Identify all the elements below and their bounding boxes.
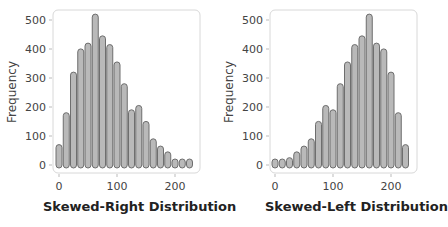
histogram-bar — [345, 62, 351, 168]
histogram-bar — [158, 146, 164, 168]
x-tick-label: 0 — [272, 180, 279, 193]
y-tick-label: 300 — [242, 72, 263, 85]
histogram-bar — [308, 139, 314, 168]
y-tick-label: 400 — [25, 43, 46, 56]
histogram-bar — [85, 43, 91, 168]
histogram-bar — [337, 84, 343, 168]
histogram-bar — [403, 145, 409, 168]
x-axis-label: Skewed-Left Distribution — [265, 199, 448, 214]
histogram-bar — [374, 43, 380, 168]
histogram-bar — [100, 36, 106, 168]
y-tick-label: 200 — [242, 101, 263, 114]
x-tick-label: 100 — [107, 180, 128, 193]
histogram-bar — [287, 158, 293, 168]
histogram-bar — [78, 49, 84, 168]
histogram-bar — [165, 152, 171, 168]
histogram-bar — [279, 159, 285, 168]
histogram-plot: 01002003004005000100200Frequency — [213, 0, 425, 227]
histogram-bar — [63, 113, 69, 168]
y-tick-label: 100 — [242, 130, 263, 143]
y-tick-label: 500 — [242, 14, 263, 27]
histogram-bar — [316, 121, 322, 168]
histogram-bar — [388, 72, 394, 168]
histogram-bar — [92, 14, 98, 168]
histogram-bar — [143, 121, 149, 168]
x-tick-label: 0 — [56, 180, 63, 193]
y-tick-label: 100 — [25, 130, 46, 143]
histogram-bar — [121, 84, 127, 168]
histogram-bar — [323, 105, 329, 168]
histogram-bar — [359, 36, 365, 168]
histogram-bar — [71, 72, 77, 168]
histogram-bar — [136, 105, 142, 168]
x-tick-label: 200 — [165, 180, 186, 193]
y-tick-label: 300 — [25, 72, 46, 85]
y-axis-label: Frequency — [222, 61, 236, 123]
histogram-bar — [301, 146, 307, 168]
histogram-bar — [129, 110, 135, 168]
y-tick-label: 0 — [256, 159, 263, 172]
histogram-plot: 01002003004005000100200Frequency — [0, 0, 212, 227]
y-tick-label: 200 — [25, 101, 46, 114]
histogram-bar — [366, 14, 372, 168]
y-tick-label: 0 — [39, 159, 46, 172]
histogram-bar — [272, 159, 278, 168]
histogram-bar — [381, 49, 387, 168]
y-tick-label: 500 — [25, 14, 46, 27]
skewed-right-histogram: 01002003004005000100200Frequency Skewed-… — [0, 0, 212, 227]
histogram-bar — [179, 159, 185, 168]
histogram-bar — [150, 139, 156, 168]
x-axis-label: Skewed-Right Distribution — [43, 199, 236, 214]
x-tick-label: 200 — [381, 180, 402, 193]
histogram-bar — [56, 145, 62, 168]
histogram-bar — [330, 110, 336, 168]
histogram-bar — [172, 159, 178, 168]
x-tick-label: 100 — [323, 180, 344, 193]
histogram-bar — [107, 45, 113, 168]
skewed-left-histogram: 01002003004005000100200Frequency Skewed-… — [213, 0, 425, 227]
histogram-bar — [114, 62, 120, 168]
histogram-bar — [352, 45, 358, 168]
y-tick-label: 400 — [242, 43, 263, 56]
y-axis-label: Frequency — [5, 61, 19, 123]
histogram-bar — [187, 159, 193, 168]
histogram-bar — [294, 152, 300, 168]
histogram-bar — [395, 113, 401, 168]
